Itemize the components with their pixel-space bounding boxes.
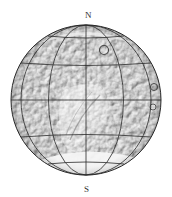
globe-map (0, 0, 172, 197)
north-label: N (85, 11, 92, 20)
south-label: S (84, 185, 89, 194)
